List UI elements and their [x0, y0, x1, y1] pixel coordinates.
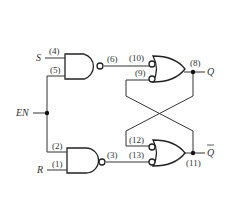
- label-s: S: [36, 52, 41, 63]
- junction-qbar: [191, 151, 195, 155]
- or-gate-top: [149, 56, 185, 82]
- logic-diagram: S R EN Q Q (4) (5) (6) (10) (9) (8) (2) …: [0, 0, 232, 220]
- circuit-svg: S R EN Q Q (4) (5) (6) (10) (9) (8) (2) …: [0, 0, 232, 220]
- or-gate-bottom: [149, 140, 185, 166]
- pin-5: (5): [50, 65, 61, 75]
- pin-11: (11): [186, 158, 201, 168]
- junction-q: [191, 70, 195, 74]
- pin-4: (4): [49, 46, 60, 56]
- pin-1: (1): [52, 159, 63, 169]
- label-q-bar: Q: [207, 147, 215, 158]
- pin-2: (2): [52, 141, 63, 151]
- label-q: Q: [207, 66, 215, 77]
- junction-en: [45, 111, 49, 115]
- pin-12: (12): [129, 135, 144, 145]
- pin-10: (10): [129, 53, 144, 63]
- label-en: EN: [15, 107, 30, 118]
- nand-gate-top: [65, 54, 103, 79]
- label-r: R: [36, 164, 43, 175]
- pin-6: (6): [107, 54, 118, 64]
- pin-13: (13): [129, 150, 144, 160]
- pin-8: (8): [190, 58, 201, 68]
- pin-9: (9): [135, 68, 146, 78]
- pin-3: (3): [107, 150, 118, 160]
- nand-gate-bottom: [67, 148, 105, 173]
